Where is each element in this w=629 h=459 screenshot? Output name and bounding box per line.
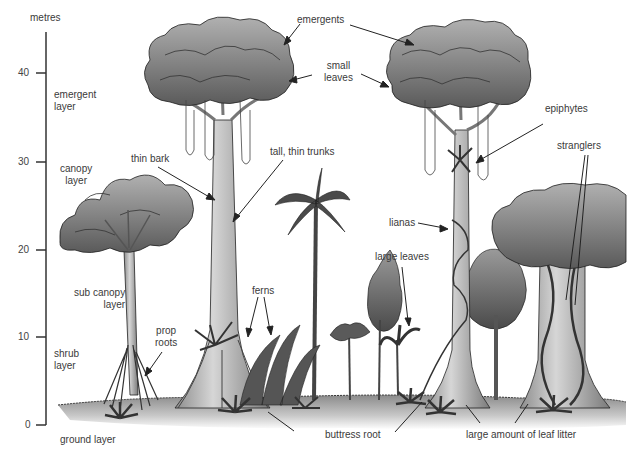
tick-0: 0 [25,419,31,430]
thin-bark-label: thin bark [131,153,169,165]
tick-40: 40 [18,67,29,78]
ground-layer-label: ground layer [60,434,116,446]
tick-30: 30 [18,156,29,167]
lianas-label: lianas [389,217,415,229]
canopy-layer-label: canopy layer [60,163,92,187]
tick-10: 10 [18,331,29,342]
small-leaves-label: small leaves [324,60,353,84]
tall-thin-trunks-label: tall, thin trunks [270,146,334,158]
epiphytes-label: epiphytes [545,103,588,115]
buttress-root-label: buttress root [325,429,381,441]
tick-20: 20 [18,244,29,255]
illustration [0,0,629,459]
rainforest-layers-diagram: metres 40 30 20 10 0 emergent layer cano… [0,0,629,459]
sub-canopy-layer-label: sub canopy layer [74,287,125,311]
stranglers-label: stranglers [557,140,601,152]
prop-roots-label: prop roots [155,325,177,349]
ferns-label: ferns [252,285,274,297]
axis-unit-label: metres [30,12,61,24]
large-leaves-label: large leaves [375,251,429,263]
leaf-litter-label: large amount of leaf litter [466,429,576,441]
shrub-layer-label: shrub layer [54,348,79,372]
emergents-label: emergents [297,14,344,26]
emergent-layer-label: emergent layer [54,89,96,113]
height-axis [36,32,46,425]
